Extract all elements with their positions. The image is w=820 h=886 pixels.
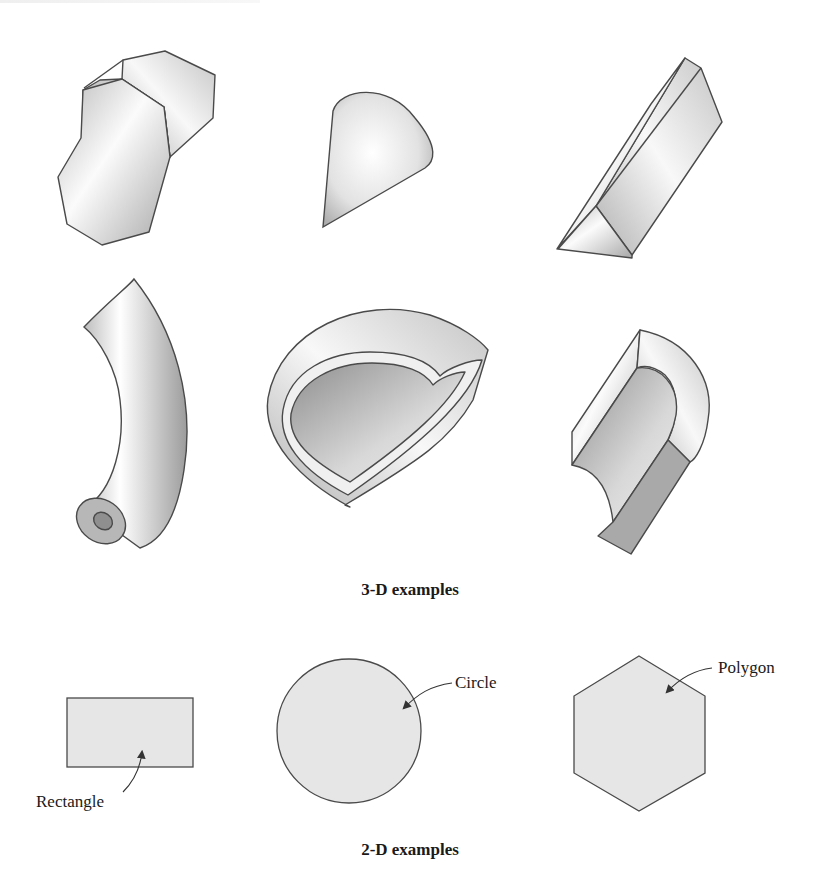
hollow-shell-shape	[267, 309, 488, 507]
label-polygon: Polygon	[718, 658, 775, 678]
figure-canvas	[0, 0, 820, 886]
label-circle: Circle	[455, 673, 497, 693]
octagonal-prism-shape	[58, 51, 215, 245]
caption-3d-examples: 3-D examples	[0, 580, 820, 600]
curved-tube-shape	[68, 279, 187, 553]
polygon-shape	[574, 656, 712, 811]
cone-segment-shape	[323, 92, 433, 227]
rectangle-shape	[67, 698, 193, 792]
circle-shape	[277, 659, 452, 803]
channel-section-shape	[572, 330, 709, 554]
triangular-prism-shape	[557, 58, 722, 258]
caption-2d-examples: 2-D examples	[0, 840, 820, 860]
label-rectangle: Rectangle	[36, 792, 104, 812]
